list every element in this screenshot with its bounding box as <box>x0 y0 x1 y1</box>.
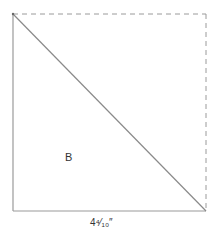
diagram-canvas: B 4⁴⁄₁₀″ <box>0 0 219 237</box>
diagonal-line <box>13 14 206 211</box>
corner-point <box>12 13 14 15</box>
region-label-b: B <box>65 151 72 163</box>
side-length-label: 4⁴⁄₁₀″ <box>90 217 113 228</box>
